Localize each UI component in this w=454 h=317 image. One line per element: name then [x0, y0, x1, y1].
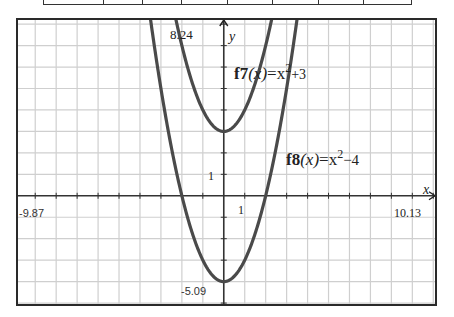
- y-tick-label: 1: [208, 169, 214, 183]
- xmin-label: -9.87: [19, 207, 44, 219]
- ymax-label: 8.24: [170, 27, 193, 42]
- f7-label: f7(x)=x2+3: [234, 61, 306, 83]
- graph-area: 8.24 y -9.87 10.13 x -5.09 1 1 f7(x)=x2+…: [0, 0, 454, 317]
- axes: [17, 19, 436, 305]
- grid-lines: [17, 19, 436, 305]
- xmax-label: 10.13: [394, 206, 421, 220]
- f8-label: f8(x)=x2−4: [286, 147, 360, 169]
- ymin-label: -5.09: [181, 285, 206, 297]
- y-axis-label: y: [227, 29, 236, 44]
- graph-frame: [17, 19, 436, 305]
- x-tick-label: 1: [238, 203, 244, 217]
- x-axis-label: x: [422, 182, 430, 197]
